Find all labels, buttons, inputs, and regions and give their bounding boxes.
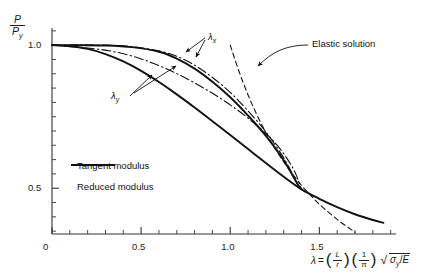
x-axis-label-equals: = [318, 255, 324, 266]
y-axis-label: P Py [10, 14, 25, 40]
curve-tangent-modulus [52, 45, 384, 223]
legend-swatch-dashdot [70, 160, 116, 170]
x-axis-label-term1: L r [333, 251, 341, 269]
annotation-lambda-y: λy [111, 90, 119, 103]
x-axis-label-radicand: σy/E [389, 253, 410, 268]
y-axis-label-denominator: Py [10, 26, 25, 40]
annotation-elastic-solution: Elastic solution [312, 38, 375, 49]
data-curves [52, 45, 384, 232]
legend-item-reduced-modulus: Reduced modulus [70, 181, 154, 192]
annotation-lambda-x: λx [208, 31, 216, 44]
x-tick-label-2: 1.0 [221, 241, 234, 252]
curve-elastic-solution [230, 45, 355, 232]
x-axis-ticks [52, 227, 391, 234]
x-tick-label-0: 0 [43, 241, 48, 252]
chart-figure: P Py 1.0 0.5 00.51.01.5 λx λy Elastic so… [0, 0, 423, 277]
x-axis-label-lambda: λ [311, 255, 316, 266]
y-tick-label-1: 1.0 [28, 39, 41, 50]
x-axis-label-radical: √ [380, 253, 387, 267]
y-axis-ticks [52, 31, 59, 231]
x-tick-label-1: 0.5 [132, 241, 145, 252]
y-tick-label-0: 0.5 [28, 182, 41, 193]
legend: Tangent modulus Reduced modulus [70, 160, 154, 192]
x-axis-label-term2: 1 π [359, 251, 369, 269]
x-axis-label: λ = ( L r ) ( 1 π ) √ σy/E [311, 250, 410, 270]
legend-label-reduced-modulus: Reduced modulus [77, 181, 154, 192]
